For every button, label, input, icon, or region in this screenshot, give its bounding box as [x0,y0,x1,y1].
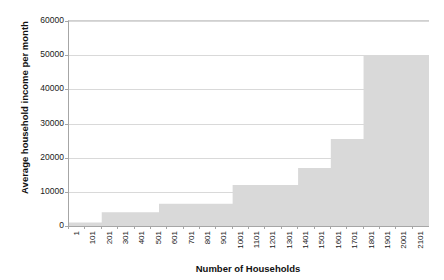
x-axis-tick-label: 1601 [334,231,343,249]
x-axis-tick-mark [199,226,200,229]
income-step-area-series [69,21,429,226]
plot-area [68,20,429,226]
x-axis-tick-mark [68,226,69,229]
x-axis-tick-label: 801 [203,231,212,244]
y-axis-tick-label: 0 [59,220,64,230]
x-axis-tick-mark [150,226,151,229]
x-axis-tick-label: 1801 [367,231,376,249]
x-axis-tick-label: 2001 [399,231,408,249]
x-axis-tick-label: 1901 [383,231,392,249]
x-axis-tick-mark [379,226,380,229]
x-axis-tick-mark [101,226,102,229]
x-axis-tick-mark [330,226,331,229]
x-axis-tick-mark [166,226,167,229]
x-axis-tick-mark [314,226,315,229]
x-axis-tick-label: 1301 [285,231,294,249]
x-axis-tick-mark [363,226,364,229]
x-axis-tick-mark [117,226,118,229]
y-axis-tick-label: 20000 [40,152,64,162]
series-polygon [69,55,429,226]
x-axis-tick-label: 501 [154,231,163,244]
x-axis-tick-mark [215,226,216,229]
x-axis-tick-mark [281,226,282,229]
y-axis-tick-label: 10000 [40,186,64,196]
x-axis-tick-label: 701 [187,231,196,244]
x-axis-tick-label: 1501 [317,231,326,249]
x-axis-tick-label: 101 [88,231,97,244]
x-axis-tick-label: 1001 [236,231,245,249]
y-axis-tick-label: 30000 [40,118,64,128]
x-axis-tick-mark [264,226,265,229]
x-axis-tick-label: 401 [137,231,146,244]
x-axis-tick-mark [395,226,396,229]
x-axis-title: Number of Households [68,263,428,274]
x-axis-tick-label: 1101 [252,231,261,248]
x-axis-tick-label: 1701 [350,231,359,249]
household-income-chart: Average household income per month 01000… [0,0,444,280]
x-axis-tick-mark [297,226,298,229]
x-axis-tick-mark [248,226,249,229]
x-axis-tick-mark [412,226,413,229]
x-axis-tick-label: 1401 [301,231,310,249]
x-axis-tick-label: 901 [219,231,228,244]
x-axis-tick-labels: 1101201301401501601701801901100111011201… [68,226,428,262]
x-axis-tick-mark [183,226,184,229]
x-axis-tick-label: 301 [121,231,130,244]
x-axis-tick-mark [232,226,233,229]
x-axis-tick-label: 2101 [416,231,425,249]
y-axis-tick-label: 60000 [40,15,64,25]
x-axis-tick-label: 201 [105,231,114,244]
x-axis-tick-mark [84,226,85,229]
x-axis-tick-mark [346,226,347,229]
y-axis-tick-label: 40000 [40,83,64,93]
x-axis-tick-label: 601 [170,231,179,244]
x-axis-tick-label: 1201 [268,231,277,249]
x-axis-tick-label: 1 [72,231,81,235]
x-axis-tick-mark [134,226,135,229]
y-axis-tick-labels: 0100002000030000400005000060000 [22,14,64,232]
y-axis-tick-label: 50000 [40,49,64,59]
